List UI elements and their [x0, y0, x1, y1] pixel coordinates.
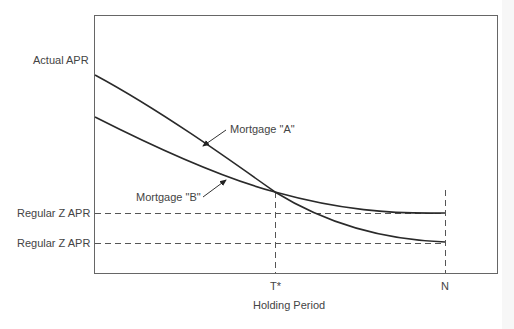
mortgage-a-curve: [95, 75, 445, 242]
regular-z-apr-lower-label: Regular Z APR: [17, 237, 90, 249]
actual-apr-label: Actual APR: [33, 54, 89, 66]
regular-z-apr-upper-label: Regular Z APR: [17, 207, 90, 219]
mortgage-a-arrow-icon: [203, 130, 226, 146]
x-axis-title: Holding Period: [253, 299, 325, 311]
plot-frame: [95, 16, 498, 274]
mortgage-b-arrow-icon: [203, 180, 226, 197]
mortgage-b-label: Mortgage "B": [136, 191, 201, 203]
n-tick: N: [441, 280, 449, 292]
apr-holding-period-diagram: Actual APR Regular Z APR Regular Z APR M…: [0, 0, 514, 329]
t-star-tick: T*: [270, 280, 282, 292]
mortgage-a-label: Mortgage "A": [230, 123, 295, 135]
